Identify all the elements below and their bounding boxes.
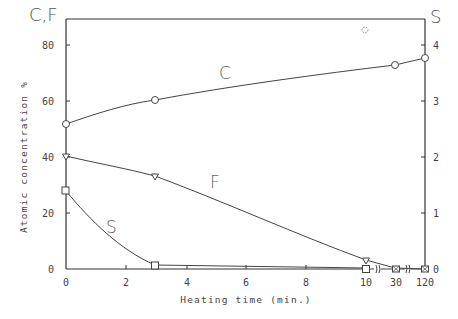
- series-s-marker: [152, 262, 159, 269]
- series-c-line: [66, 58, 425, 124]
- series-s-marker: [363, 266, 370, 273]
- y-right-tick-0: 0: [433, 264, 439, 275]
- series-s-marker: [422, 266, 429, 272]
- series-c-marker: [63, 121, 70, 128]
- x-tick-10: 10: [360, 277, 372, 288]
- y-right-tick-3: 3: [433, 96, 439, 107]
- series-f-label: F: [210, 172, 220, 192]
- x-tick-8: 8: [303, 277, 309, 288]
- chart: 0 20 40 60 80 0 1 2 3 4 0 2 4 6 8 10 30 …: [0, 0, 458, 319]
- x-tick-30: 30: [390, 277, 402, 288]
- series-s-marker: [393, 266, 400, 272]
- series-c-label: C: [219, 63, 231, 83]
- y-right-tick-1: 1: [433, 208, 439, 219]
- y-left-tick-20: 20: [42, 208, 54, 219]
- y-right-tick-4: 4: [433, 40, 439, 51]
- right-corner-label: S: [430, 6, 441, 27]
- y-left-tick-60: 60: [42, 96, 54, 107]
- series-s-marker: [62, 187, 69, 194]
- y-left-tick-80: 80: [42, 40, 54, 51]
- series-c-marker: [152, 97, 159, 104]
- x-tick-2: 2: [123, 277, 129, 288]
- series-c-marker: [392, 62, 399, 69]
- series-c-marker: [422, 55, 429, 62]
- x-tick-4: 4: [184, 277, 190, 288]
- y-right-tick-2: 2: [433, 152, 439, 163]
- y-left-tick-0: 0: [48, 264, 54, 275]
- x-tick-0: 0: [63, 277, 69, 288]
- scan-artifact: [362, 27, 368, 33]
- x-axis-title: Heating time (min.): [180, 294, 311, 305]
- y-left-tick-40: 40: [42, 152, 54, 163]
- series-s-label: S: [106, 217, 117, 237]
- left-corner-label: C,F: [29, 4, 58, 25]
- x-tick-6: 6: [243, 277, 249, 288]
- x-tick-120: 120: [416, 277, 434, 288]
- y-axis-title: Atomic concentration %: [18, 81, 29, 233]
- series-f-line: [66, 156, 425, 269]
